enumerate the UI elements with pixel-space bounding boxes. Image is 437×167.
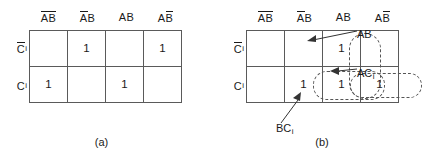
column-headers-a: AB AB AB AB (29, 11, 185, 24)
row-label-b-1: Ci (220, 30, 244, 67)
figure-a-caption: (a) (0, 136, 211, 148)
column-header-a-2-right: B (88, 12, 96, 24)
kmap-b-cell-r1c1 (247, 31, 285, 67)
row-label-a-1-base: C (17, 42, 25, 55)
row-labels-a: Ci Ci (3, 30, 27, 104)
row-label-a-2: Ci (3, 67, 27, 104)
row-label-a-2-sub: i (25, 81, 27, 90)
column-header-b-3-left: A (336, 11, 344, 23)
column-header-a-4-left: A (158, 12, 166, 24)
leader-line-bci-icon (277, 92, 303, 124)
row-labels-b: Ci Ci (220, 30, 244, 104)
leader-line-aci-icon (330, 66, 358, 76)
kmap-a-cell-r2c2 (68, 67, 106, 103)
row-label-a-1-sub: i (25, 44, 27, 53)
column-header-b-3: AB (324, 11, 363, 24)
kmap-a-cell-r2c1: 1 (30, 67, 68, 103)
kmap-a-cell-r2c3: 1 (106, 67, 144, 103)
row-label-b-1-base: C (234, 42, 242, 55)
table-row: 1 1 (30, 31, 182, 67)
kmap-a-cell-r1c3 (106, 31, 144, 67)
row-label-b-1-sub: i (242, 44, 244, 53)
kmap-a-cell-r1c1 (30, 31, 68, 67)
column-headers-b: AB AB AB AB (246, 11, 402, 24)
kmap-a-cell-r2c4 (144, 67, 182, 103)
table-row: 1 1 (30, 67, 182, 103)
group-label-bci: BCi (276, 122, 294, 136)
column-header-b-4: AB (363, 11, 402, 24)
kmap-grid-a: 1 1 1 1 (29, 30, 182, 103)
column-header-a-4-right: B (166, 11, 174, 24)
column-header-b-1-left: A (258, 11, 266, 24)
column-header-b-1-right: B (266, 11, 274, 24)
column-header-a-3-left: A (119, 11, 127, 23)
group-label-aci: ACi (357, 67, 375, 81)
column-header-a-3-right: B (127, 11, 135, 23)
column-header-a-2: AB (68, 11, 107, 24)
column-header-b-2-left: A (297, 11, 305, 24)
column-header-a-3: AB (107, 11, 146, 24)
column-header-b-2-right: B (305, 12, 313, 24)
karnaugh-map-figure-a: AB AB AB AB Ci Ci 1 1 1 1 (a) (0, 0, 219, 167)
row-label-a-1: Ci (3, 30, 27, 67)
column-header-a-4: AB (146, 11, 185, 24)
kmap-a: AB AB AB AB Ci Ci 1 1 1 1 (29, 30, 182, 103)
karnaugh-map-figure-b: AB AB AB AB Ci Ci 1 1 1 1 (219, 0, 437, 167)
row-label-b-2-sub: i (242, 81, 244, 90)
row-label-a-2-base: C (17, 80, 25, 92)
column-header-a-1: AB (29, 11, 68, 24)
kmap-a-cell-r1c4: 1 (144, 31, 182, 67)
column-header-b-1: AB (246, 11, 285, 24)
kmap-a-cell-r1c2: 1 (68, 31, 106, 67)
group-label-ab: AB (357, 28, 372, 42)
figure-b-caption: (b) (213, 136, 431, 148)
column-header-a-1-left: A (41, 11, 49, 24)
row-label-b-2: Ci (220, 67, 244, 104)
table-row: 1 1 1 (247, 67, 399, 103)
column-header-a-1-right: B (49, 11, 57, 24)
column-header-b-4-left: A (375, 12, 383, 24)
column-header-b-3-right: B (344, 11, 352, 23)
column-header-b-4-right: B (383, 11, 391, 24)
row-label-b-2-base: C (234, 80, 242, 92)
column-header-a-2-left: A (80, 11, 88, 24)
leader-line-ab-icon (307, 30, 359, 42)
column-header-b-2: AB (285, 11, 324, 24)
